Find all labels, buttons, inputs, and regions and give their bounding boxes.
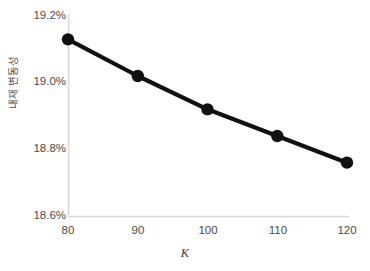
y-tick-label: 18.6% bbox=[18, 210, 66, 222]
data-point-marker bbox=[132, 70, 144, 82]
data-point-marker bbox=[201, 103, 213, 115]
data-point-marker bbox=[271, 130, 283, 142]
y-tick-label: 18.8% bbox=[18, 143, 66, 155]
data-point-marker bbox=[62, 33, 74, 45]
x-tick-label: 110 bbox=[258, 225, 298, 237]
data-series-line bbox=[68, 39, 347, 162]
implied-volatility-chart: 19.2% 19.0% 18.8% 18.6% 80 90 100 110 12… bbox=[0, 0, 370, 271]
x-tick-label: 80 bbox=[48, 225, 88, 237]
x-tick-label: 120 bbox=[327, 225, 367, 237]
x-tick-label: 90 bbox=[118, 225, 158, 237]
x-tick-label: 100 bbox=[188, 225, 228, 237]
y-tick-label: 19.0% bbox=[18, 76, 66, 88]
y-axis-title: 내재 변동성 bbox=[5, 33, 20, 133]
x-axis-title: K bbox=[0, 246, 370, 261]
y-tick-label: 19.2% bbox=[18, 10, 66, 22]
data-point-marker bbox=[341, 156, 353, 168]
